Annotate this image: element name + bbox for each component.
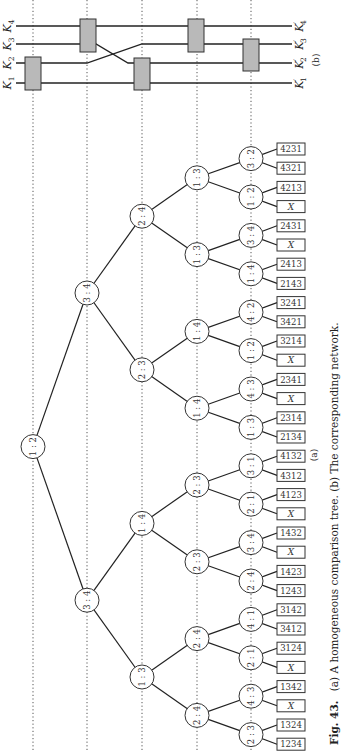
- comparison-node: 1 : 4: [185, 319, 209, 343]
- caption-text: (a) A homogeneous comparison tree. (b) T…: [328, 322, 340, 691]
- leaf: 1423: [277, 565, 305, 577]
- leaf: 3142: [277, 604, 305, 616]
- node-label: 1 : 3: [192, 168, 202, 187]
- comparison-node: 1 : 3: [185, 243, 209, 267]
- leaf: X: [277, 700, 305, 712]
- output-label-k2: K′2: [292, 57, 308, 70]
- figure-caption: Fig. 43. (a) A homogeneous comparison tr…: [328, 322, 340, 745]
- leaf: X: [277, 393, 305, 405]
- node-label: 2 : 3: [192, 475, 202, 494]
- node-label: 2 : 4: [246, 571, 256, 590]
- node-label: 1 : 4: [246, 264, 256, 283]
- permutation-label: 4213: [280, 183, 302, 193]
- comparison-node: 2 : 4: [185, 627, 209, 651]
- comparison-node: 2 : 1: [239, 646, 263, 670]
- comparison-node: 4 : 3: [239, 684, 263, 708]
- permutation-label: 2314: [280, 413, 302, 423]
- figure-43: K1K′1K2K′2K3K′3K4K′4 1 : 23 : 43 : 42 : …: [0, 0, 345, 751]
- leaf: 3124: [277, 642, 305, 654]
- comparator-2: [80, 19, 96, 52]
- permutation-label: 2431: [280, 221, 302, 231]
- permutation-label: 3412: [280, 624, 302, 634]
- figure-labels: (b) (a) Fig. 43. (a) A homogeneous compa…: [309, 54, 340, 745]
- permutation-label: 1234: [280, 739, 302, 749]
- leaf: 4231: [277, 143, 305, 155]
- comparator-4: [188, 19, 204, 52]
- output-label-k1: K′1: [292, 77, 308, 90]
- leaf: 1324: [277, 719, 305, 731]
- node-label: 2 : 4: [192, 629, 202, 648]
- impossible-leaf-label: X: [287, 701, 295, 711]
- leaf: 2413: [277, 258, 305, 270]
- permutation-label: 3124: [280, 643, 302, 653]
- input-label-k3: K3: [1, 37, 16, 51]
- permutation-label: 2341: [280, 375, 302, 385]
- permutation-label: 3421: [280, 317, 302, 327]
- leaf: 2314: [277, 412, 305, 424]
- node-label: 3 : 4: [82, 283, 92, 302]
- node-label: 1 : 3: [246, 418, 256, 437]
- figure-number: Fig. 43.: [328, 701, 340, 745]
- node-label: 1 : 3: [192, 245, 202, 264]
- node-label: 4 : 2: [246, 303, 256, 322]
- node-label: 2 : 3: [192, 552, 202, 571]
- leaf: 3214: [277, 335, 305, 347]
- permutation-label: 2143: [280, 279, 302, 289]
- node-label: 2 : 1: [246, 495, 256, 514]
- tree-edge: [33, 447, 87, 601]
- impossible-leaf-label: X: [287, 509, 295, 519]
- leaf: 2143: [277, 277, 305, 289]
- comparison-node: 1 : 2: [21, 435, 45, 459]
- node-label: 2 : 4: [137, 207, 147, 226]
- comparison-node: 4 : 3: [239, 377, 263, 401]
- node-label: 2 : 3: [246, 725, 256, 744]
- comparison-node: 3 : 4: [239, 531, 263, 555]
- impossible-leaf-label: X: [287, 394, 295, 404]
- permutation-label: 1324: [280, 720, 302, 730]
- comparison-node: 2 : 1: [239, 492, 263, 516]
- leaf: X: [277, 508, 305, 520]
- node-label: 1 : 4: [137, 514, 147, 533]
- leaf: 2341: [277, 373, 305, 385]
- leaf: 4213: [277, 181, 305, 193]
- permutation-label: 2134: [280, 432, 302, 442]
- node-label: 3 : 4: [246, 533, 256, 552]
- leaf: 1243: [277, 585, 305, 597]
- node-label: 3 : 4: [82, 591, 92, 610]
- output-label-k4: K′4: [292, 20, 308, 33]
- comparator-3: [134, 58, 150, 90]
- comparison-node: 2 : 3: [185, 550, 209, 574]
- comparator-network: K1K′1K2K′2K3K′3K4K′4: [1, 19, 308, 91]
- node-label: 2 : 4: [192, 706, 202, 725]
- comparator-5: [243, 39, 259, 71]
- comparison-node: 2 : 4: [185, 703, 209, 727]
- comparison-node: 1 : 2: [239, 185, 263, 209]
- permutation-label: 1432: [280, 528, 302, 538]
- leaf: 4132: [277, 450, 305, 462]
- permutation-label: 3241: [280, 298, 302, 308]
- comparison-node: 3 : 2: [239, 147, 263, 171]
- leaf: 2134: [277, 431, 305, 443]
- comparison-node: 1 : 2: [239, 339, 263, 363]
- leaf: 1432: [277, 527, 305, 539]
- node-label: 1 : 2: [28, 437, 38, 456]
- comparison-node: 2 : 4: [239, 569, 263, 593]
- input-label-k1: K1: [1, 77, 16, 91]
- comparison-node: 3 : 4: [75, 281, 99, 305]
- node-label: 1 : 3: [137, 667, 147, 686]
- permutation-label: 4312: [280, 471, 302, 481]
- comparison-node: 1 : 4: [185, 396, 209, 420]
- permutation-label: 4132: [280, 451, 302, 461]
- tree-edge: [87, 600, 142, 677]
- part-b-label: (b): [311, 54, 321, 67]
- leaf: 1342: [277, 681, 305, 693]
- tree-edge: [87, 216, 142, 293]
- node-label: 1 : 4: [192, 322, 202, 341]
- node-label: 3 : 2: [246, 149, 256, 168]
- permutation-label: 3214: [280, 336, 302, 346]
- leaf: 3241: [277, 297, 305, 309]
- leaf: 4321: [277, 162, 305, 174]
- tree-edge: [87, 293, 142, 370]
- permutation-label: 1423: [280, 567, 302, 577]
- leaf: 1234: [277, 738, 305, 750]
